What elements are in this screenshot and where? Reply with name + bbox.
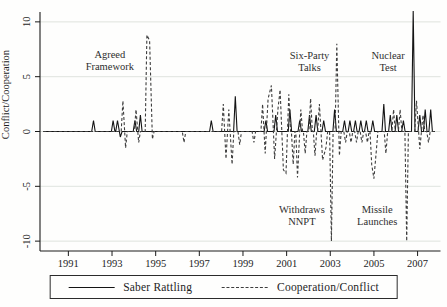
solid-line-sample: [68, 287, 114, 288]
y-tick-label: -10: [21, 234, 32, 248]
annotation-six-party-talks: Six-PartyTalks: [290, 50, 330, 73]
legend: Saber Rattling Cooperation/Conflict: [49, 275, 398, 299]
series-line-saber-rattling: [43, 11, 435, 137]
legend-label: Saber Rattling: [123, 281, 192, 293]
dashed-line-sample: [222, 287, 268, 288]
x-tick-label: 1997: [189, 258, 210, 269]
x-tick-label: 1991: [58, 258, 79, 269]
x-tick-label: 2005: [363, 258, 384, 269]
legend-item-cooperation-conflict: Cooperation/Conflict: [222, 281, 379, 293]
annotation-agreed-framework: AgreedFramework: [86, 49, 135, 72]
y-tick-label: 10: [21, 17, 32, 28]
chart-figure: 1050-5-101991199319951997199920012003200…: [0, 0, 447, 307]
legend-label: Cooperation/Conflict: [277, 281, 379, 293]
plot-area: 1050-5-101991199319951997199920012003200…: [0, 0, 447, 307]
x-tick-label: 2003: [320, 258, 341, 269]
x-tick-label: 2001: [276, 258, 297, 269]
x-tick-label: 1995: [145, 258, 166, 269]
y-tick-label: 0: [21, 129, 32, 134]
y-tick-label: 5: [21, 74, 32, 79]
annotation-withdraws-nnpt: WithdrawsNNPT: [279, 204, 325, 227]
y-axis-label: Conflict/Cooperation: [0, 49, 11, 139]
annotation-missile-launches: MissileLaunches: [357, 204, 397, 227]
x-tick-label: 1993: [102, 258, 123, 269]
annotation-nuclear-test: NuclearTest: [372, 50, 406, 73]
legend-item-saber-rattling: Saber Rattling: [68, 281, 192, 293]
x-tick-label: 1999: [232, 258, 253, 269]
x-tick-label: 2007: [407, 258, 428, 269]
y-tick-label: -5: [21, 182, 32, 191]
